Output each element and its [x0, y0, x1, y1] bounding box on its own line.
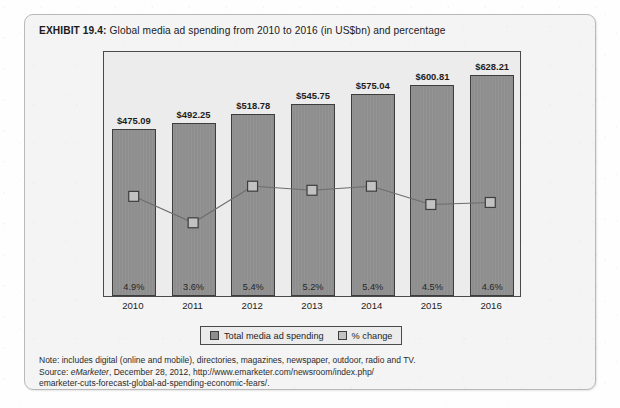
bar-value-label: $600.81: [400, 71, 464, 82]
bars-layer: $475.094.9%$492.253.6%$518.785.4%$545.75…: [104, 52, 520, 296]
percent-change-label: 5.4%: [343, 282, 403, 292]
source-prefix: Source:: [39, 367, 71, 377]
legend-item-total-media-ad-spending: Total media ad spending: [210, 331, 324, 341]
bar-group: $545.755.2%: [291, 52, 335, 296]
legend-swatch-change-icon: [338, 331, 347, 340]
x-axis-tick-2011: 2011: [163, 300, 223, 311]
footnote-source-continued: emarketer-cuts-forecast-global-ad-spendi…: [39, 378, 581, 390]
bar-value-label: $518.78: [221, 100, 285, 111]
bar: [231, 114, 275, 296]
percent-change-label: 4.9%: [104, 282, 164, 292]
bar-value-label: $475.09: [102, 115, 166, 126]
bar: [410, 85, 454, 296]
bar: [351, 94, 395, 296]
x-axis-tick-2012: 2012: [222, 300, 282, 311]
x-axis-tick-2015: 2015: [402, 300, 462, 311]
percent-change-label: 4.5%: [402, 282, 462, 292]
legend-swatch-total-icon: [210, 331, 219, 340]
bar-value-label: $628.21: [460, 61, 524, 72]
bar-value-label: $492.25: [162, 109, 226, 120]
footnotes: Note: includes digital (online and mobil…: [39, 355, 581, 390]
bar-group: $492.253.6%: [172, 52, 216, 296]
chart-plot-area: $475.094.9%$492.253.6%$518.785.4%$545.75…: [103, 51, 521, 297]
bar-group: $575.045.4%: [351, 52, 395, 296]
exhibit-number: EXHIBIT 19.4:: [39, 25, 107, 36]
bar-group: $600.814.5%: [410, 52, 454, 296]
bar: [112, 129, 156, 296]
x-axis-tick-2013: 2013: [282, 300, 342, 311]
bar-group: $518.785.4%: [231, 52, 275, 296]
bar-group: $475.094.9%: [112, 52, 156, 296]
x-axis-tick-2010: 2010: [103, 300, 163, 311]
footnote-source: Source: eMarketer, December 28, 2012, ht…: [39, 367, 581, 379]
bar-group: $628.214.6%: [470, 52, 514, 296]
percent-change-label: 5.4%: [223, 282, 283, 292]
bar: [172, 123, 216, 296]
legend-item-percent-change: % change: [338, 331, 393, 341]
exhibit-title: EXHIBIT 19.4:Global media ad spending fr…: [39, 25, 583, 36]
bar: [291, 104, 335, 296]
bar-value-label: $545.75: [281, 90, 345, 101]
source-rest: , December 28, 2012, http://www.emarkete…: [109, 367, 374, 377]
bar: [470, 75, 514, 296]
percent-change-label: 3.6%: [164, 282, 224, 292]
bar-value-label: $575.04: [341, 80, 405, 91]
percent-change-label: 5.2%: [283, 282, 343, 292]
x-axis-tick-2016: 2016: [461, 300, 521, 311]
x-axis-labels: 2010201120122013201420152016: [103, 300, 521, 316]
exhibit-caption: Global media ad spending from 2010 to 20…: [110, 25, 446, 36]
legend-label-change: % change: [352, 331, 393, 341]
source-publication: eMarketer: [71, 367, 109, 377]
exhibit-card: EXHIBIT 19.4:Global media ad spending fr…: [24, 14, 596, 390]
footnote-note: Note: includes digital (online and mobil…: [39, 355, 581, 367]
legend-label-total: Total media ad spending: [224, 331, 324, 341]
percent-change-label: 4.6%: [462, 282, 522, 292]
chart-legend: Total media ad spending % change: [200, 326, 402, 345]
x-axis-tick-2014: 2014: [342, 300, 402, 311]
